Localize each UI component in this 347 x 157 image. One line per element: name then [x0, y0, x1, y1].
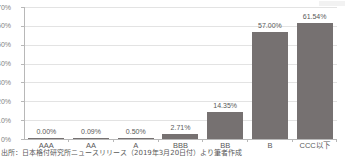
bar-chart-figure: 0%10%20%30%40%50%60%70%0.00%0.09%0.50%2.…	[0, 0, 347, 157]
y-axis-tick-label: 10%	[0, 117, 11, 124]
bar-value-label: 57.00%	[258, 22, 282, 30]
y-axis-tick-label: 70%	[0, 4, 11, 11]
bar-slot: 2.71%	[158, 7, 203, 139]
bar-value-label: 0.00%	[36, 128, 56, 136]
bar-slot: 0.00%	[24, 7, 69, 139]
x-axis-category-label: CCC以下	[292, 141, 337, 150]
bar-slot: 0.09%	[69, 7, 114, 139]
y-axis-tick-label: 60%	[0, 22, 11, 29]
bar-value-label: 61.54%	[303, 13, 327, 21]
bar	[28, 138, 64, 139]
gridline	[24, 139, 337, 140]
bar-value-label: 2.71%	[171, 124, 191, 132]
y-axis-tick-label: 40%	[0, 60, 11, 67]
y-axis-tick-mark	[21, 139, 24, 140]
bar	[162, 134, 198, 139]
y-axis-tick-label: 0%	[0, 136, 11, 143]
y-axis-line	[24, 7, 25, 139]
y-axis-tick-label: 20%	[0, 98, 11, 105]
bar	[207, 112, 243, 139]
bar	[252, 32, 288, 139]
y-axis-tick-label: 50%	[0, 41, 11, 48]
bar	[118, 138, 154, 139]
top-right-artifact	[319, 1, 345, 6]
plot-area: 0%10%20%30%40%50%60%70%0.00%0.09%0.50%2.…	[24, 7, 337, 139]
bar-value-label: 14.35%	[213, 102, 237, 110]
bar-slot: 61.54%	[292, 7, 337, 139]
bar	[297, 23, 333, 139]
bar-slot: 57.00%	[248, 7, 293, 139]
bar-slot: 0.50%	[113, 7, 158, 139]
y-axis-tick-label: 30%	[0, 79, 11, 86]
bar-value-label: 0.09%	[81, 128, 101, 136]
bar-value-label: 0.50%	[126, 128, 146, 136]
source-note: 出所：日本格付研究所ニュースリリース（2019年3月20日付）より筆者作成	[1, 149, 242, 157]
x-axis-category-label: B	[248, 141, 293, 150]
bar	[73, 138, 109, 139]
bar-slot: 14.35%	[203, 7, 248, 139]
